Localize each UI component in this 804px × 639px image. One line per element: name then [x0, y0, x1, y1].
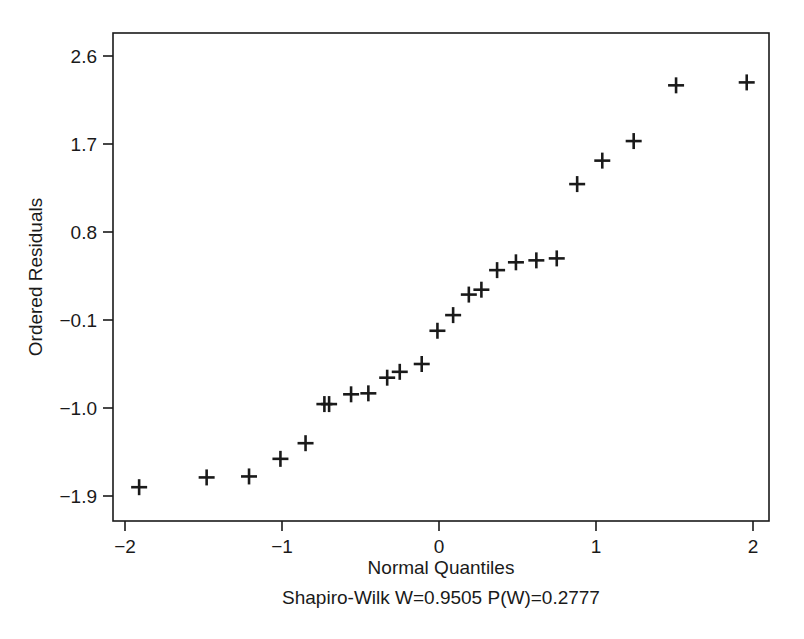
plot-canvas: 2.61.70.8−0.1−1.0−1.9 −2−1012 Ordered Re… — [0, 0, 804, 639]
y-tick-label: −1.9 — [59, 486, 97, 507]
x-axis-title: Normal Quantiles — [368, 557, 515, 578]
x-tick-label: −1 — [271, 536, 293, 557]
qq-plot-figure: 2.61.70.8−0.1−1.0−1.9 −2−1012 Ordered Re… — [0, 0, 804, 639]
y-tick-label: 2.6 — [71, 46, 97, 67]
y-tick-label: −0.1 — [59, 310, 97, 331]
x-tick-label: 2 — [748, 536, 759, 557]
y-tick-label: 1.7 — [71, 134, 97, 155]
x-tick-label: −2 — [114, 536, 136, 557]
y-tick-label: 0.8 — [71, 222, 97, 243]
y-axis-title: Ordered Residuals — [25, 198, 46, 356]
shapiro-wilk-caption: Shapiro-Wilk W=0.9505 P(W)=0.2777 — [282, 587, 600, 608]
x-tick-label: 1 — [591, 536, 602, 557]
x-tick-label: 0 — [434, 536, 445, 557]
y-tick-label: −1.0 — [59, 398, 97, 419]
